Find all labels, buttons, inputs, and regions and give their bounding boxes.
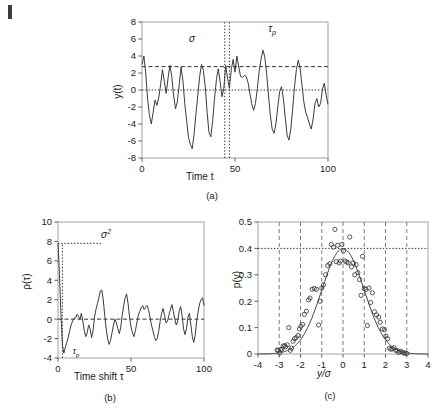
y-tick-label: 2 xyxy=(131,67,136,78)
y-tick-label: 8 xyxy=(47,236,52,247)
data-point xyxy=(316,323,320,327)
y-tick-label: 2 xyxy=(47,294,52,305)
y-tick-label: 6 xyxy=(47,255,52,266)
y-tick-label: -2 xyxy=(128,101,136,112)
x-tick-label: 1 xyxy=(362,359,367,370)
y-tick-label: -2 xyxy=(44,333,52,344)
panel-b-xlabel: Time shift τ xyxy=(74,371,124,382)
data-point xyxy=(359,293,363,297)
y-tick-label: 4 xyxy=(131,50,136,61)
data-point xyxy=(333,227,337,231)
y-tick-label: 0.4 xyxy=(239,243,252,254)
data-point xyxy=(348,235,352,239)
tau-p-annotation-sub: p xyxy=(271,28,276,37)
sigma-squared-annotation-sup: 2 xyxy=(106,228,111,235)
y-tick-label: 0 xyxy=(247,348,252,359)
data-point xyxy=(287,326,291,330)
y-tick-label: 0.5 xyxy=(239,216,252,227)
x-tick-label: 3 xyxy=(404,359,409,370)
y-tick-label: 6 xyxy=(131,33,136,44)
panel-c-xlabel: y/σ xyxy=(317,368,331,379)
data-point xyxy=(369,300,373,304)
data-series-line xyxy=(142,50,328,149)
scatter-points xyxy=(275,227,409,355)
data-point xyxy=(360,254,364,258)
data-point xyxy=(378,320,382,324)
data-point xyxy=(304,309,308,313)
panel-c-pdf: -4-3-2-10123400.10.20.30.40.5 p(y) y/σ (… xyxy=(222,206,438,411)
panel-c-plot: -4-3-2-10123400.10.20.30.40.5 xyxy=(222,206,438,411)
x-tick-label: 50 xyxy=(230,163,241,174)
panel-a-xlabel: Time t xyxy=(186,171,213,182)
y-tick-label: 10 xyxy=(41,216,52,227)
x-tick-label: 0 xyxy=(139,163,144,174)
panel-b-ylabel: ρ(τ) xyxy=(21,262,32,302)
y-tick-label: -4 xyxy=(44,352,52,363)
tau-p-annotation-sub: p xyxy=(75,351,80,358)
data-series-line xyxy=(58,243,204,353)
x-tick-label: -4 xyxy=(254,359,262,370)
x-tick-label: -3 xyxy=(275,359,283,370)
page-edge-mark xyxy=(8,5,12,19)
panel-a-time-series: 050100-8-6-4-202468στp y(t) Time t (a) xyxy=(100,8,340,208)
x-tick-label: 0 xyxy=(55,363,60,374)
x-tick-label: -2 xyxy=(296,359,304,370)
y-tick-label: -8 xyxy=(128,152,136,163)
sigma-squared-annotation: σ2 xyxy=(101,228,111,240)
x-tick-label: 4 xyxy=(425,359,430,370)
y-tick-label: 0.1 xyxy=(239,322,252,333)
y-tick-label: 0 xyxy=(131,84,136,95)
plot-frame xyxy=(58,222,204,358)
tau-p-annotation: τp xyxy=(73,346,80,358)
y-tick-label: -6 xyxy=(128,135,136,146)
x-tick-label: 0 xyxy=(340,359,345,370)
y-tick-label: 4 xyxy=(47,275,52,286)
y-tick-label: 8 xyxy=(131,16,136,27)
x-tick-label: 100 xyxy=(196,363,212,374)
panel-b-caption: (b) xyxy=(90,392,130,403)
y-tick-label: -4 xyxy=(128,118,136,129)
panel-a-ylabel: y(t) xyxy=(112,72,123,112)
panel-b-autocorrelation: 050100-4-20246810σ2τp ρ(τ) Time shift τ … xyxy=(14,206,214,411)
data-point xyxy=(370,291,374,295)
panel-c-ylabel: p(y) xyxy=(231,260,242,300)
x-tick-label: 100 xyxy=(320,163,336,174)
y-tick-label: 0 xyxy=(47,314,52,325)
data-point xyxy=(365,323,369,327)
x-tick-label: 50 xyxy=(126,363,137,374)
data-point xyxy=(336,243,340,247)
sigma-annotation: σ xyxy=(189,33,196,44)
panel-a-plot: 050100-8-6-4-202468στp xyxy=(100,8,340,208)
panel-c-caption: (c) xyxy=(310,390,350,401)
x-tick-label: 2 xyxy=(383,359,388,370)
panel-a-caption: (a) xyxy=(192,190,232,201)
tau-p-annotation: τp xyxy=(268,23,276,37)
